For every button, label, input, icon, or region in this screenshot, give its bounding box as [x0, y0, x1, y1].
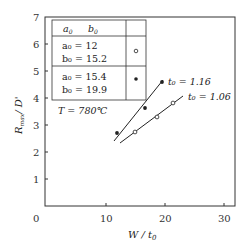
data-point-open	[133, 130, 137, 134]
x-tick-30: 30	[218, 213, 231, 224]
data-point-filled	[160, 80, 164, 84]
data-point-filled	[143, 106, 147, 110]
legend-entry-2-a: a₀ = 15.4	[62, 71, 107, 82]
x-tick-20: 20	[159, 213, 172, 224]
legend-entry-1-b: b₀ = 15.2	[62, 53, 107, 64]
y-axis: 7 6 5 4 3 2 1	[33, 12, 48, 185]
legend-entry-1-a: a₀ = 12	[62, 40, 98, 51]
y-tick-7: 7	[33, 12, 39, 23]
y-tick-4: 4	[33, 93, 39, 104]
chart: 7 6 5 4 3 2 1 0 10 20 30 W / t0 Rmax/ D'…	[0, 0, 247, 248]
y-tick-1: 1	[33, 174, 39, 185]
line-label-t0-1.16: t₀ = 1.16	[168, 76, 211, 87]
y-tick-3: 3	[33, 120, 39, 131]
line-label-t0-1.06: t₀ = 1.06	[188, 91, 231, 102]
y-tick-5: 5	[33, 66, 39, 77]
y-tick-6: 6	[33, 39, 39, 50]
y-tick-2: 2	[33, 147, 39, 158]
legend-open-circle-icon	[134, 49, 138, 53]
x-tick-0: 0	[33, 213, 39, 224]
data-point-open	[171, 101, 175, 105]
y-axis-label: Rmax/ D'	[13, 96, 25, 135]
x-axis-label: W / t0	[128, 229, 157, 242]
temperature-annotation: T = 780℃	[58, 105, 107, 116]
legend-entry-2-b: b₀ = 19.9	[62, 84, 107, 95]
legend-table: a0 b0 a₀ = 12 b₀ = 15.2 a₀ = 15.4 b₀ = 1…	[52, 20, 146, 100]
legend-filled-circle-icon	[134, 77, 138, 81]
data-point-filled	[115, 131, 119, 135]
x-tick-10: 10	[100, 213, 113, 224]
data-point-open	[155, 115, 159, 119]
